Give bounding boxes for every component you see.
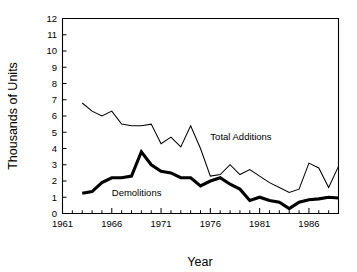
x-tick-label: 1966 — [101, 218, 122, 229]
x-tick-label: 1981 — [249, 218, 270, 229]
x-tick-label: 1971 — [151, 218, 172, 229]
y-tick-label: 10 — [46, 45, 57, 56]
y-tick-label: 9 — [52, 62, 57, 73]
y-tick-label: 11 — [47, 29, 57, 40]
y-tick-label: 7 — [52, 94, 57, 105]
line-chart: 0123456789101112 19611966197119761981198… — [0, 0, 357, 272]
y-tick-label: 6 — [52, 110, 57, 121]
y-tick-label: 4 — [52, 143, 57, 154]
x-tick-label: 1976 — [200, 218, 221, 229]
y-tick-label: 5 — [52, 127, 57, 138]
y-tick-label: 1 — [52, 192, 57, 203]
y-tick-label: 8 — [52, 78, 57, 89]
y-axis-title: Thousands of Units — [6, 62, 20, 170]
x-tick-label: 1986 — [298, 218, 319, 229]
y-tick-label: 12 — [46, 13, 57, 24]
series-annotation-demolitions: Demolitions — [112, 187, 162, 198]
series-annotation-total-additions: Total Additions — [210, 131, 272, 142]
y-tick-label: 3 — [52, 159, 57, 170]
y-tick-label: 2 — [52, 175, 57, 186]
x-axis-title: Year — [187, 255, 212, 269]
x-tick-label: 1961 — [52, 218, 73, 229]
chart-container: 0123456789101112 19611966197119761981198… — [0, 0, 357, 272]
